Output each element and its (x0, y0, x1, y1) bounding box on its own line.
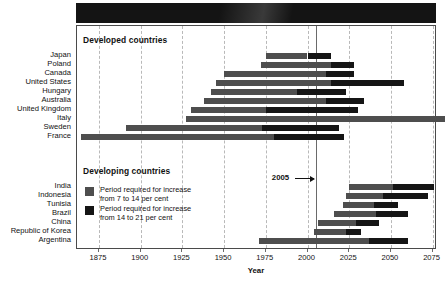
x-tick-2025 (348, 249, 349, 252)
bar-segment-7-to-14 (204, 98, 326, 104)
bar-segment-7-to-14 (224, 71, 326, 77)
bar-segment-7-to-14 (186, 116, 445, 122)
annotation-2005-arrow-icon (295, 178, 314, 179)
x-tick-1950 (223, 249, 224, 252)
category-label-united-states: United States (25, 78, 71, 86)
category-label-canada: Canada (44, 69, 71, 77)
legend-item-2: Period required for increasefrom 14 to 2… (85, 205, 191, 222)
bar-segment-14-to-21 (297, 89, 345, 95)
bar-segment-14-to-21 (274, 134, 344, 140)
bar-segment-14-to-21 (383, 193, 428, 199)
x-tick-label-1950: 1950 (215, 253, 232, 262)
legend-swatch-icon (85, 187, 94, 196)
bar-segment-7-to-14 (314, 229, 346, 235)
x-tick-label-2050: 2050 (381, 253, 398, 262)
bar-segment-7-to-14 (334, 211, 376, 217)
category-label-argentina: Argentina (38, 236, 71, 244)
bar-segment-14-to-21 (393, 184, 435, 190)
x-axis: Year 18751900192519501975200020252050207… (76, 249, 436, 284)
category-label-japan: Japan (50, 51, 71, 59)
bar-segment-7-to-14 (191, 107, 266, 113)
bar-segment-14-to-21 (346, 229, 361, 235)
bar-segment-7-to-14 (216, 80, 331, 86)
bar-segment-7-to-14 (346, 193, 383, 199)
bar-segment-7-to-14 (266, 53, 308, 59)
category-label-india: India (55, 182, 71, 190)
x-tick-label-2000: 2000 (298, 253, 315, 262)
legend-label-line2: from 7 to 14 per cent (100, 195, 191, 204)
x-tick-label-1925: 1925 (173, 253, 190, 262)
chart-figure: JapanPolandCanadaUnited StatesHungaryAus… (0, 0, 445, 284)
x-tick-label-2025: 2025 (340, 253, 357, 262)
bar-segment-7-to-14 (126, 125, 263, 131)
x-tick-2075 (432, 249, 433, 252)
section-caption-developed: Developed countries (83, 35, 167, 45)
x-tick-label-1900: 1900 (131, 253, 148, 262)
x-tick-1975 (265, 249, 266, 252)
x-tick-label-2075: 2075 (423, 253, 440, 262)
x-tick-2050 (390, 249, 391, 252)
bar-segment-7-to-14 (349, 184, 392, 190)
bar-segment-7-to-14 (81, 134, 274, 140)
header-band-gloss (76, 3, 436, 23)
category-label-united-kingdom: United Kingdom (17, 105, 71, 113)
legend-item-1: Period required for increasefrom 7 to 14… (85, 186, 191, 203)
category-label-sweden: Sweden (44, 123, 71, 131)
bar-segment-7-to-14 (259, 238, 369, 244)
category-label-brazil: Brazil (52, 209, 71, 217)
x-tick-2000 (307, 249, 308, 252)
bar-segment-14-to-21 (266, 107, 358, 113)
x-axis-title: Year (76, 266, 436, 275)
bar-segment-14-to-21 (331, 80, 404, 86)
header-band (76, 3, 436, 23)
bar-segment-14-to-21 (374, 202, 397, 208)
bar-segment-14-to-21 (326, 98, 364, 104)
x-tick-1900 (140, 249, 141, 252)
bar-segment-14-to-21 (376, 211, 408, 217)
bar-segment-14-to-21 (331, 62, 354, 68)
plot-area: Developed countries Developing countries… (76, 25, 436, 249)
bar-segment-14-to-21 (262, 125, 339, 131)
category-label-tunisia: Tunisia (47, 200, 71, 208)
bar-segment-14-to-21 (369, 238, 407, 244)
category-label-australia: Australia (41, 96, 71, 104)
x-tick-1875 (98, 249, 99, 252)
category-label-italy: Italy (57, 114, 71, 122)
category-label-hungary: Hungary (42, 87, 71, 95)
legend-swatch-icon (85, 206, 94, 215)
bar-segment-14-to-21 (356, 220, 379, 226)
category-label-poland: Poland (47, 60, 71, 68)
legend-label: Period required for increasefrom 7 to 14… (100, 186, 191, 203)
x-tick-1925 (181, 249, 182, 252)
annotation-2005-label: 2005 (272, 173, 289, 182)
section-caption-developing: Developing countries (83, 166, 170, 176)
legend-label: Period required for increasefrom 14 to 2… (100, 205, 191, 222)
category-label-indonesia: Indonesia (38, 191, 71, 199)
legend-label-line2: from 14 to 21 per cent (100, 214, 191, 223)
x-tick-label-1875: 1875 (90, 253, 107, 262)
category-label-france: France (47, 132, 71, 140)
bar-segment-7-to-14 (211, 89, 298, 95)
bar-segment-7-to-14 (318, 220, 356, 226)
category-label-column: JapanPolandCanadaUnited StatesHungaryAus… (0, 25, 73, 249)
bar-segment-14-to-21 (308, 53, 331, 59)
bar-segment-14-to-21 (326, 71, 354, 77)
x-tick-label-1975: 1975 (256, 253, 273, 262)
category-label-china: China (51, 218, 71, 226)
gridline-2075 (433, 26, 434, 248)
bar-segment-7-to-14 (261, 62, 331, 68)
bar-segment-7-to-14 (343, 202, 375, 208)
category-label-republic-of-korea: Republic of Korea (11, 227, 71, 235)
